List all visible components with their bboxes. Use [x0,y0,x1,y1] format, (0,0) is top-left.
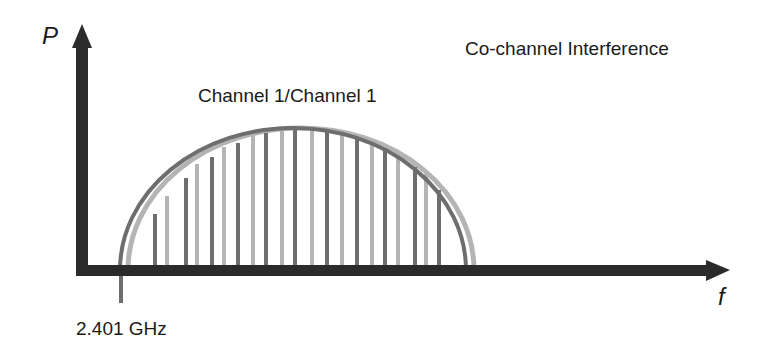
channel-label: Channel 1/Channel 1 [198,85,377,107]
x-axis-arrow-icon [706,260,730,281]
x-tick-label: 2.401 GHz [76,318,167,340]
diagram-title: Co-channel Interference [465,38,669,60]
x-axis [76,265,708,276]
y-axis [76,45,88,276]
y-axis-label: P [42,22,58,50]
y-axis-arrow-icon [72,24,92,48]
channel-a-spectrum [120,128,466,270]
channel-b-spectrum [128,128,474,270]
x-axis-label: f [718,283,725,311]
